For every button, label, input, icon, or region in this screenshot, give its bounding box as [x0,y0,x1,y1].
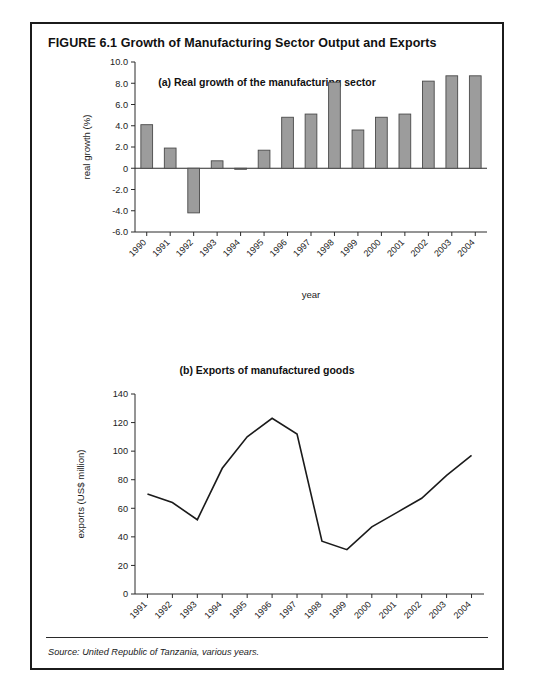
y-tick-label: 4.0 [115,121,128,131]
x-tick-label: 1995 [244,237,265,258]
bar [188,168,200,213]
x-tick-label: 2004 [452,599,473,620]
x-tick-label: 2002 [409,237,430,258]
y-tick-label: 60 [118,504,128,514]
x-tick-label: 2001 [377,599,398,620]
y-axis-title: real growth (%) [81,114,92,179]
bar [305,114,317,168]
y-tick-label: 6.0 [115,100,128,110]
x-tick-label: 1999 [338,237,359,258]
x-tick-label: 2000 [362,237,383,258]
bar [329,82,341,168]
y-tick-label: -2.0 [112,185,128,195]
figure-box: FIGURE 6.1 Growth of Manufacturing Secto… [30,22,504,670]
y-tick-label: -4.0 [112,206,128,216]
x-tick-label: 1993 [197,237,218,258]
y-tick-label: 8.0 [115,79,128,89]
x-tick-label: 1991 [128,599,149,620]
y-tick-label: 2.0 [115,142,128,152]
x-tick-label: 1998 [315,237,336,258]
x-tick-label: 2000 [352,599,373,620]
x-tick-label: 2002 [402,599,423,620]
x-tick-label: 2003 [432,237,453,258]
y-tick-label: 80 [118,475,128,485]
x-tick-label: 1999 [327,599,348,620]
y-tick-label: 140 [113,389,128,399]
source-divider [46,637,488,638]
x-tick-label: 1991 [150,237,171,258]
bar [376,117,388,168]
bar [352,130,364,168]
x-tick-label: 1992 [174,237,195,258]
panel-a-chart: 10.08.06.04.02.00-2.0-4.0-6.019901991199… [32,24,506,338]
source-note: Source: United Republic of Tanzania, var… [48,647,259,657]
x-tick-label: 1998 [302,599,323,620]
x-tick-label: 1994 [202,599,223,620]
y-tick-label: 0 [123,164,128,174]
x-tick-label: 2004 [455,237,476,258]
x-tick-label: 1990 [127,237,148,258]
bar [141,125,153,169]
y-tick-label: 20 [118,561,128,571]
bar [446,76,458,168]
x-tick-label: 2003 [427,599,448,620]
bar [399,114,411,168]
bar [235,168,247,169]
x-tick-label: 1995 [227,599,248,620]
bar [258,150,270,168]
exports-line-series [147,418,471,549]
bar [422,81,434,168]
x-tick-label: 1994 [221,237,242,258]
y-tick-label: 100 [113,446,128,456]
panel-b-chart: 1401201008060402001991199219931994199519… [32,374,506,643]
x-tick-label: 1992 [153,599,174,620]
x-tick-label: 1997 [291,237,312,258]
x-tick-label: 1996 [268,237,289,258]
y-axis-title: exports (US$ million) [75,449,86,538]
y-tick-label: 0 [123,589,128,599]
x-tick-label: 1993 [178,599,199,620]
x-tick-label: 2001 [385,237,406,258]
y-tick-label: -6.0 [112,227,128,237]
y-tick-label: 120 [113,418,128,428]
y-tick-label: 10.0 [110,57,128,67]
x-axis-title: year [302,289,321,300]
bar [469,76,481,168]
bar [164,148,176,168]
y-tick-label: 40 [118,532,128,542]
bar [282,117,294,168]
bar [211,161,223,168]
x-tick-label: 1997 [277,599,298,620]
x-tick-label: 1996 [252,599,273,620]
